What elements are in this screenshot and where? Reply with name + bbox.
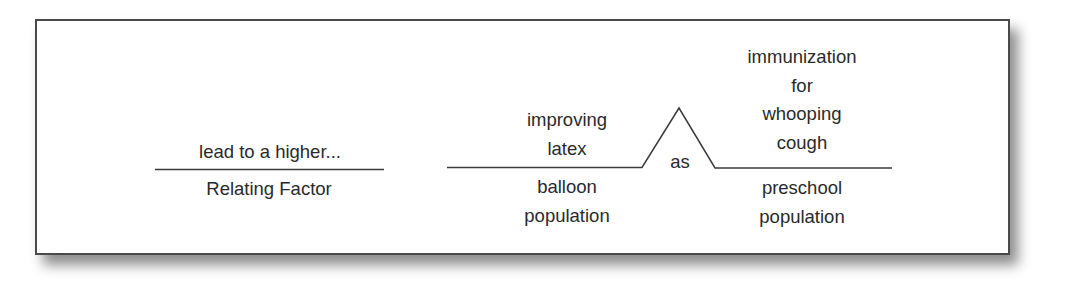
right-below-line-2: population	[759, 203, 844, 232]
left-below-line-2: population	[524, 202, 609, 231]
right-above-line-4: cough	[748, 129, 857, 158]
right-pair-below: preschool population	[759, 174, 844, 231]
relating-factor-below: Relating Factor	[206, 174, 331, 203]
right-above-line-3: whooping	[748, 100, 857, 129]
left-pair-below: balloon population	[524, 173, 609, 230]
left-pair-above: improving latex	[527, 106, 607, 163]
right-above-line-1: immunization	[748, 43, 857, 72]
right-below-line-1: preschool	[759, 174, 844, 203]
right-pair-above: immunization for whooping cough	[748, 43, 857, 157]
left-above-line-2: latex	[527, 135, 607, 164]
right-above-line-2: for	[748, 72, 857, 101]
connector-as: as	[670, 147, 690, 176]
left-above-line-1: improving	[527, 106, 607, 135]
left-below-line-1: balloon	[524, 173, 609, 202]
relating-factor-above: lead to a higher...	[199, 137, 341, 166]
